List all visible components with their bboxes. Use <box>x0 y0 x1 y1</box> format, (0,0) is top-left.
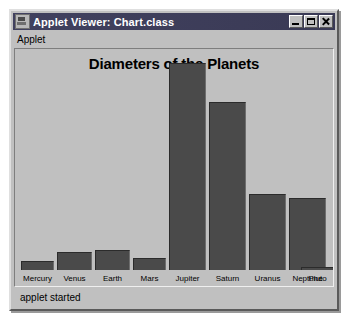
status-text: applet started <box>14 292 81 303</box>
bar-column: Venus <box>57 54 92 270</box>
bar-column: Uranus <box>249 54 286 270</box>
minimize-icon[interactable] <box>289 15 303 28</box>
bar-rect <box>95 250 130 270</box>
bar-rect <box>169 63 206 270</box>
bar-rect <box>209 102 246 270</box>
bar-label: Uranus <box>255 272 281 285</box>
title-bar[interactable]: Applet Viewer: Chart.class <box>13 13 335 30</box>
bar-label: Pluto <box>308 272 326 285</box>
menu-bar: Applet <box>13 31 335 47</box>
applet-canvas: Diameters of the Planets MercuryVenusEar… <box>14 48 334 287</box>
bar-column: Mars <box>133 54 166 270</box>
bar-column: Jupiter <box>169 54 206 270</box>
bar-column: Pluto <box>301 54 334 270</box>
bar-column: Saturn <box>209 54 246 270</box>
close-icon[interactable] <box>319 15 333 28</box>
bar-rect <box>133 258 166 270</box>
bar-label: Mercury <box>23 272 52 285</box>
bar-column: Earth <box>95 54 130 270</box>
bar-label: Saturn <box>216 272 240 285</box>
bar-label: Venus <box>63 272 85 285</box>
bar-chart-plot-area: MercuryVenusEarthMarsJupiterSaturnUranus… <box>19 49 329 270</box>
menu-item-applet[interactable]: Applet <box>13 33 50 46</box>
bar-rect <box>21 261 54 270</box>
bar-label: Jupiter <box>175 272 199 285</box>
bar-rect <box>57 252 92 270</box>
applet-viewer-icon <box>15 14 30 29</box>
bar-column: Mercury <box>21 54 54 270</box>
bar-label: Earth <box>103 272 122 285</box>
bar-rect <box>249 194 286 270</box>
status-bar: applet started <box>14 288 334 306</box>
bar-label: Mars <box>141 272 159 285</box>
maximize-icon[interactable] <box>304 15 318 28</box>
applet-viewer-window: Applet Viewer: Chart.class Applet Diamet… <box>9 9 339 311</box>
window-title: Applet Viewer: Chart.class <box>33 16 289 28</box>
bar-rect <box>301 267 334 270</box>
window-controls <box>289 15 333 28</box>
